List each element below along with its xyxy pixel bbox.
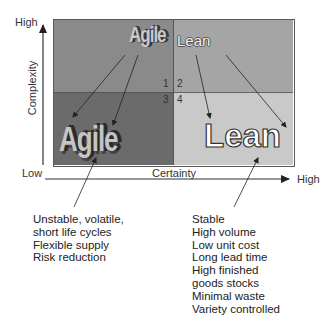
y-axis-high-label: High [15, 16, 38, 28]
x-axis-title: Certainty [152, 167, 196, 179]
lean-description-line: Stable [192, 213, 280, 226]
y-axis-low-label: Low [22, 167, 42, 179]
agile-description-line: Flexible supply [33, 239, 124, 252]
lean-description-line: Variety controlled [192, 303, 280, 316]
x-axis-high-label: High [297, 173, 320, 185]
axes-and-arrows [0, 0, 333, 328]
lean-description-line: High finished [192, 264, 280, 277]
lean-description: Stable High volume Low unit cost Long le… [192, 213, 280, 315]
lean-description-line: Low unit cost [192, 239, 280, 252]
y-axis-title: Complexity [26, 58, 38, 118]
lean-description-line: High volume [192, 226, 280, 239]
agile-description-line: short life cycles [33, 226, 124, 239]
lean-description-line: goods stocks [192, 277, 280, 290]
lean-description-line: Long lead time [192, 251, 280, 264]
agile-description-line: Unstable, volatile, [33, 213, 124, 226]
agile-description-line: Risk reduction [33, 251, 124, 264]
agile-description: Unstable, volatile, short life cycles Fl… [33, 213, 124, 264]
lean-description-line: Minimal waste [192, 290, 280, 303]
